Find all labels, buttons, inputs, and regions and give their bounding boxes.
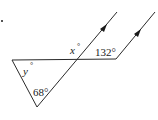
angle-label-132: 132° [95,46,116,58]
horizontal-line [12,59,116,60]
geometry-figure: x ° 132° y ° 68° [0,0,158,120]
angle-label-y: y [22,65,28,77]
angle-label-x: x [69,44,75,56]
angle-label-68: 68° [33,86,48,98]
diagram-canvas: x ° 132° y ° 68° [0,0,158,120]
degree-symbol: ° [30,61,33,70]
degree-symbol: ° [77,42,80,51]
stray-dot [1,20,3,22]
parallel-line-2 [116,12,155,59]
